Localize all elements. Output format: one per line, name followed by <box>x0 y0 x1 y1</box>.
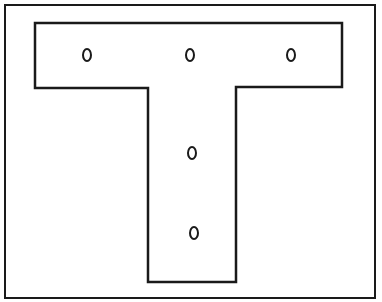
t-plate-diagram <box>0 0 382 302</box>
